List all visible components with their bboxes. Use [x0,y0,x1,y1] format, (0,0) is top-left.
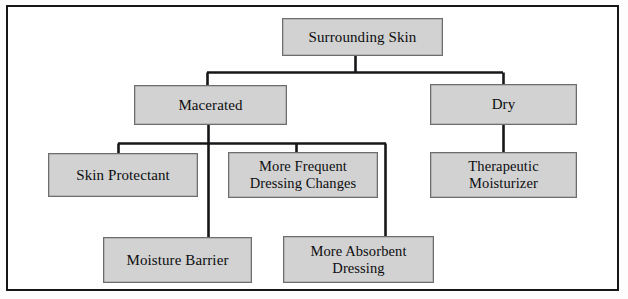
node-more-absorbent-dressing[interactable]: More Absorbent Dressing [283,236,434,283]
node-dry[interactable]: Dry [430,84,577,125]
node-moisture-barrier[interactable]: Moisture Barrier [103,237,252,283]
node-surrounding-skin[interactable]: Surrounding Skin [282,18,443,56]
node-more-frequent-dressing-changes[interactable]: More Frequent Dressing Changes [228,152,378,198]
node-therapeutic-moisturizer[interactable]: Therapeutic Moisturizer [430,152,577,198]
node-macerated[interactable]: Macerated [134,85,287,125]
diagram-screen: Surrounding Skin Macerated Dry Skin Prot… [0,0,628,299]
node-skin-protectant[interactable]: Skin Protectant [48,153,198,197]
flowchart: Surrounding Skin Macerated Dry Skin Prot… [0,0,628,299]
